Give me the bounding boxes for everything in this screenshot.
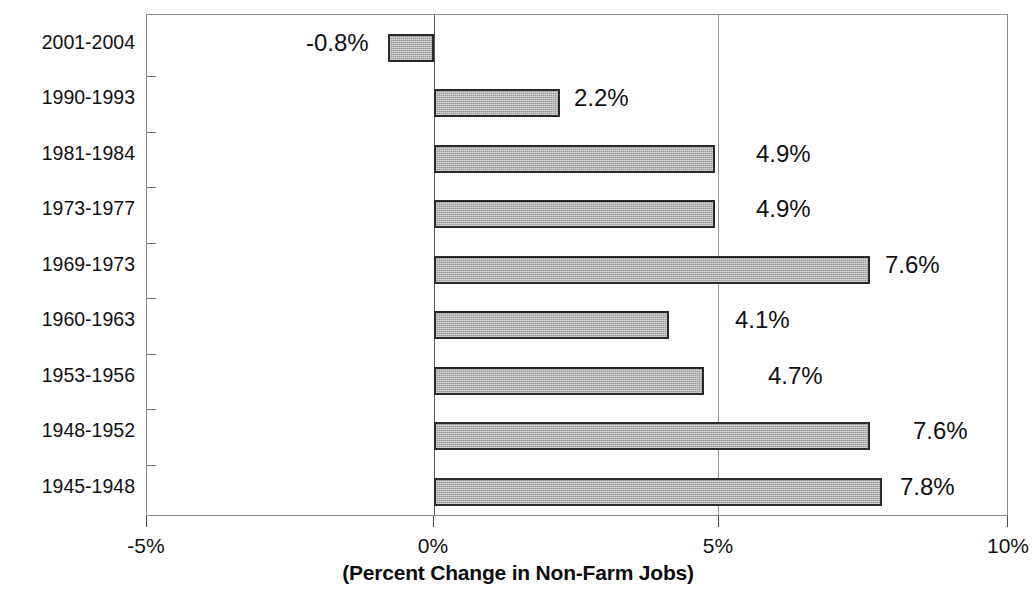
bar-1960-1963[interactable] bbox=[434, 311, 669, 339]
category-tick bbox=[147, 132, 156, 133]
category-label-1969-1973: 1969-1973 bbox=[5, 255, 135, 275]
category-tick bbox=[147, 298, 156, 299]
x-axis-title: (Percent Change in Non-Farm Jobs) bbox=[0, 561, 1036, 585]
bar-1948-1952[interactable] bbox=[434, 422, 870, 450]
x-tick-label-10: 10% bbox=[987, 535, 1029, 556]
category-tick bbox=[147, 465, 156, 466]
value-label-1953-1956: 4.7% bbox=[768, 364, 823, 388]
x-tick-label-minus5: -5% bbox=[127, 535, 164, 556]
category-label-1990-1993: 1990-1993 bbox=[5, 88, 135, 108]
category-tick bbox=[147, 76, 156, 77]
category-label-1948-1952: 1948-1952 bbox=[5, 421, 135, 441]
bar-1973-1977[interactable] bbox=[434, 200, 715, 228]
value-label-1969-1973: 7.6% bbox=[885, 253, 940, 277]
x-tick-label-5: 5% bbox=[703, 535, 733, 556]
bar-1981-1984[interactable] bbox=[434, 145, 715, 173]
x-tick-minus5 bbox=[146, 516, 147, 527]
category-label-2001-2004: 2001-2004 bbox=[5, 33, 135, 53]
bar-1953-1956[interactable] bbox=[434, 367, 704, 395]
category-label-1973-1977: 1973-1977 bbox=[5, 199, 135, 219]
bar-chart: 2001-2004 1990-1993 1981-1984 1973-1977 … bbox=[0, 0, 1036, 593]
category-tick bbox=[147, 354, 156, 355]
x-tick-10 bbox=[1007, 516, 1008, 527]
category-label-1981-1984: 1981-1984 bbox=[5, 144, 135, 164]
value-label-1945-1948: 7.8% bbox=[900, 475, 955, 499]
value-label-1948-1952: 7.6% bbox=[913, 419, 968, 443]
value-label-1973-1977: 4.9% bbox=[756, 197, 811, 221]
value-label-1981-1984: 4.9% bbox=[756, 142, 811, 166]
category-tick bbox=[147, 187, 156, 188]
bar-1969-1973[interactable] bbox=[434, 256, 870, 284]
value-label-1960-1963: 4.1% bbox=[735, 308, 790, 332]
category-tick bbox=[147, 243, 156, 244]
value-label-1990-1993: 2.2% bbox=[574, 86, 629, 110]
x-tick-5 bbox=[718, 516, 719, 527]
bar-1945-1948[interactable] bbox=[434, 478, 882, 506]
x-tick-label-0: 0% bbox=[418, 535, 448, 556]
bar-1990-1993[interactable] bbox=[434, 89, 560, 117]
category-tick bbox=[147, 409, 156, 410]
category-label-1960-1963: 1960-1963 bbox=[5, 310, 135, 330]
category-label-1953-1956: 1953-1956 bbox=[5, 366, 135, 386]
value-label-2001-2004: -0.8% bbox=[306, 31, 369, 55]
category-label-1945-1948: 1945-1948 bbox=[5, 477, 135, 497]
x-tick-0 bbox=[433, 516, 434, 527]
bar-2001-2004[interactable] bbox=[388, 34, 434, 62]
